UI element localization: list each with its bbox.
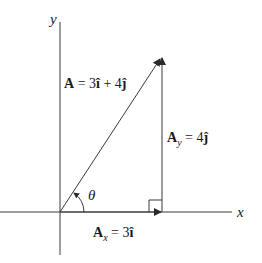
- vector-ay-label: Ay = 4ĵ: [167, 130, 208, 148]
- vector-diagram: y x θ A = 3î + 4ĵ Ay = 4ĵ Ax = 3î: [0, 0, 262, 263]
- angle-theta-label: θ: [88, 187, 96, 203]
- vector-ax-label: Ax = 3î: [93, 225, 134, 243]
- vector-a-label: A = 3î + 4ĵ: [64, 76, 127, 91]
- x-axis-label: x: [236, 204, 244, 220]
- y-axis-label: y: [48, 11, 57, 27]
- angle-arc: [74, 193, 84, 212]
- right-angle-marker: [149, 200, 162, 212]
